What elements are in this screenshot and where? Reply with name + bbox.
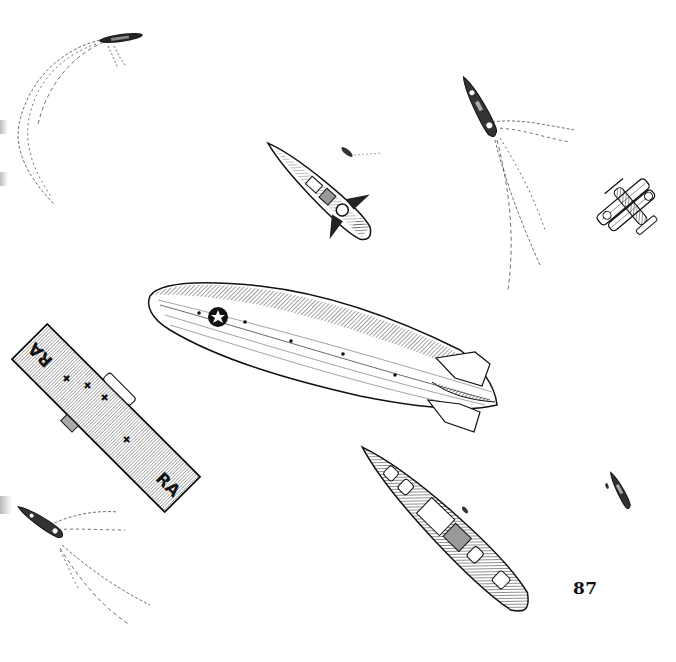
torpedo-small — [340, 146, 354, 159]
airship — [149, 283, 497, 432]
page-number: 87 — [573, 578, 598, 598]
small-boat-right — [607, 471, 632, 510]
wake-bottom-left — [50, 512, 150, 625]
submarine-center — [248, 121, 391, 258]
destroyer-top-right — [458, 74, 500, 138]
biplane — [588, 168, 670, 249]
star-roundel-icon — [208, 307, 228, 327]
cruiser — [350, 435, 539, 620]
torpedo-right — [605, 483, 610, 490]
destroyer-bottom-left — [15, 503, 65, 540]
destroyer-top-left — [99, 31, 144, 45]
torpedo-cruiser — [461, 506, 469, 515]
wake-top-left — [18, 40, 126, 205]
aircraft-carrier: RA RA ✚ ✚ ✚ ✚ — [6, 317, 208, 519]
illustration-scene: RA RA ✚ ✚ ✚ ✚ — [0, 0, 676, 662]
wake-top-right — [492, 121, 575, 290]
